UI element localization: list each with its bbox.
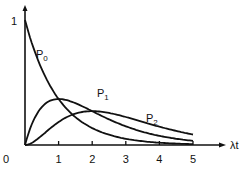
x-axis-arrow-icon [219, 143, 226, 148]
curve-p0 [25, 20, 193, 144]
curve-p1 [25, 99, 193, 145]
x-tick-label: 2 [89, 153, 95, 165]
x-tick-label: 5 [190, 153, 196, 165]
x-tick-label: 3 [123, 153, 129, 165]
poisson-probability-chart: 0123451λt P0P1P2 [0, 0, 249, 169]
x-tick-label: 1 [56, 153, 62, 165]
curve-p2 [25, 111, 193, 145]
x-tick-label: 4 [156, 153, 162, 165]
x-ticks: 0123451λt [3, 15, 239, 165]
x-tick-label: 0 [3, 153, 9, 165]
x-axis-label: λt [230, 139, 239, 151]
label-p1: P1 [97, 87, 109, 102]
y-tick-label: 1 [11, 15, 17, 27]
labels: P0P1P2 [36, 48, 158, 127]
y-axis-arrow-icon [23, 5, 28, 11]
curves [25, 20, 193, 145]
